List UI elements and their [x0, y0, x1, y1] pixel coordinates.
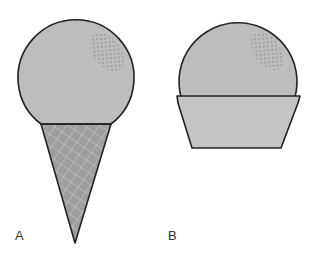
panel-label-a: A [15, 228, 24, 243]
ice-cream-diagram [0, 0, 315, 258]
cup [177, 96, 300, 148]
scoop-a [18, 20, 134, 124]
panel-label-b: B [168, 228, 177, 243]
waffle-cone [41, 124, 111, 243]
ice-cream-cup-figure [177, 23, 300, 148]
ice-cream-cone-figure [18, 20, 134, 243]
